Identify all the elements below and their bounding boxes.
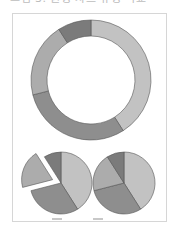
charts-canvas xyxy=(0,0,178,240)
axis-label-left-pie xyxy=(52,218,62,220)
slice-c xyxy=(31,29,67,95)
axis-label-right-pie xyxy=(93,218,103,220)
doughnut-chart xyxy=(31,20,151,140)
standard-pie-chart xyxy=(93,152,155,214)
slice-a xyxy=(91,20,151,131)
slice-b xyxy=(33,91,123,140)
exploded-pie-chart xyxy=(22,152,92,214)
